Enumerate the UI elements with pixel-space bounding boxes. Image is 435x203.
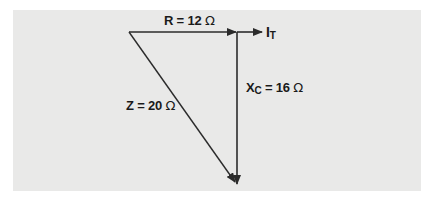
resistance-label: R = 12 Ω (164, 13, 215, 28)
impedance-symbol: Z (126, 98, 134, 113)
current-subscript: T (270, 30, 276, 41)
impedance-value: 20 (148, 98, 162, 113)
ohm-symbol: Ω (165, 98, 175, 113)
equals: = (262, 80, 276, 95)
reactance-subscript: C (254, 85, 261, 96)
ohm-symbol: Ω (205, 13, 215, 28)
resistance-symbol: R (164, 13, 173, 28)
equals: = (173, 13, 187, 28)
impedance-label: Z = 20 Ω (126, 98, 175, 113)
equals: = (134, 98, 148, 113)
phasor-triangle (0, 0, 435, 203)
reactance-label: XC = 16 Ω (246, 80, 303, 95)
current-label: IT (266, 24, 276, 40)
resistance-value: 12 (187, 13, 201, 28)
ohm-symbol: Ω (293, 80, 303, 95)
reactance-value: 16 (276, 80, 290, 95)
